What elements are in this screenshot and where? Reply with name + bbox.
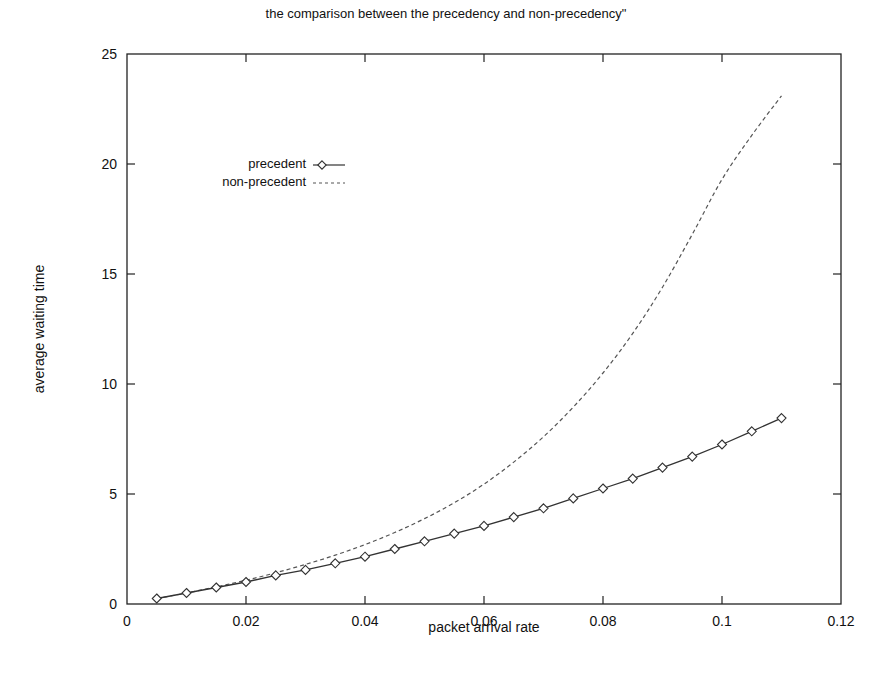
y-tick-label: 20 (101, 156, 117, 172)
diamond-marker-icon (688, 452, 697, 461)
diamond-marker-icon (539, 504, 548, 513)
diamond-marker-icon (420, 537, 429, 546)
plot-area: 00.020.040.060.080.10.120510152025 (0, 0, 892, 677)
diamond-marker-icon (152, 594, 161, 603)
diamond-marker-icon (331, 559, 340, 568)
diamond-marker-icon (450, 529, 459, 538)
x-tick-label: 0.08 (589, 613, 616, 629)
legend-label-non-precedent: non-precedent (136, 174, 306, 189)
diamond-marker-icon (318, 161, 326, 169)
non-precedent-line (157, 96, 782, 599)
x-tick-label: 0.12 (827, 613, 854, 629)
diamond-marker-icon (301, 565, 310, 574)
diamond-marker-icon (509, 513, 518, 522)
y-tick-label: 5 (109, 486, 117, 502)
diamond-marker-icon (658, 463, 667, 472)
diamond-marker-icon (599, 484, 608, 493)
x-tick-label: 0 (123, 613, 131, 629)
diamond-marker-icon (480, 521, 489, 530)
axis-ticks: 00.020.040.060.080.10.120510152025 (101, 46, 854, 629)
diamond-marker-icon (242, 578, 251, 587)
y-tick-label: 0 (109, 596, 117, 612)
y-tick-label: 10 (101, 376, 117, 392)
precedent-line (157, 418, 782, 598)
diamond-marker-icon (212, 583, 221, 592)
y-tick-label: 15 (101, 266, 117, 282)
x-tick-label: 0.02 (232, 613, 259, 629)
x-tick-label: 0.1 (712, 613, 732, 629)
data-series (152, 96, 786, 603)
diamond-marker-icon (390, 545, 399, 554)
legend (313, 161, 345, 183)
legend-label-precedent: precedent (136, 156, 306, 171)
y-tick-label: 25 (101, 46, 117, 62)
diamond-marker-icon (182, 589, 191, 598)
diamond-marker-icon (777, 414, 786, 423)
diamond-marker-icon (271, 571, 280, 580)
diamond-marker-icon (747, 427, 756, 436)
diamond-marker-icon (361, 552, 370, 561)
diamond-marker-icon (718, 440, 727, 449)
diamond-marker-icon (569, 494, 578, 503)
diamond-marker-icon (628, 474, 637, 483)
x-tick-label: 0.06 (470, 613, 497, 629)
x-tick-label: 0.04 (351, 613, 378, 629)
